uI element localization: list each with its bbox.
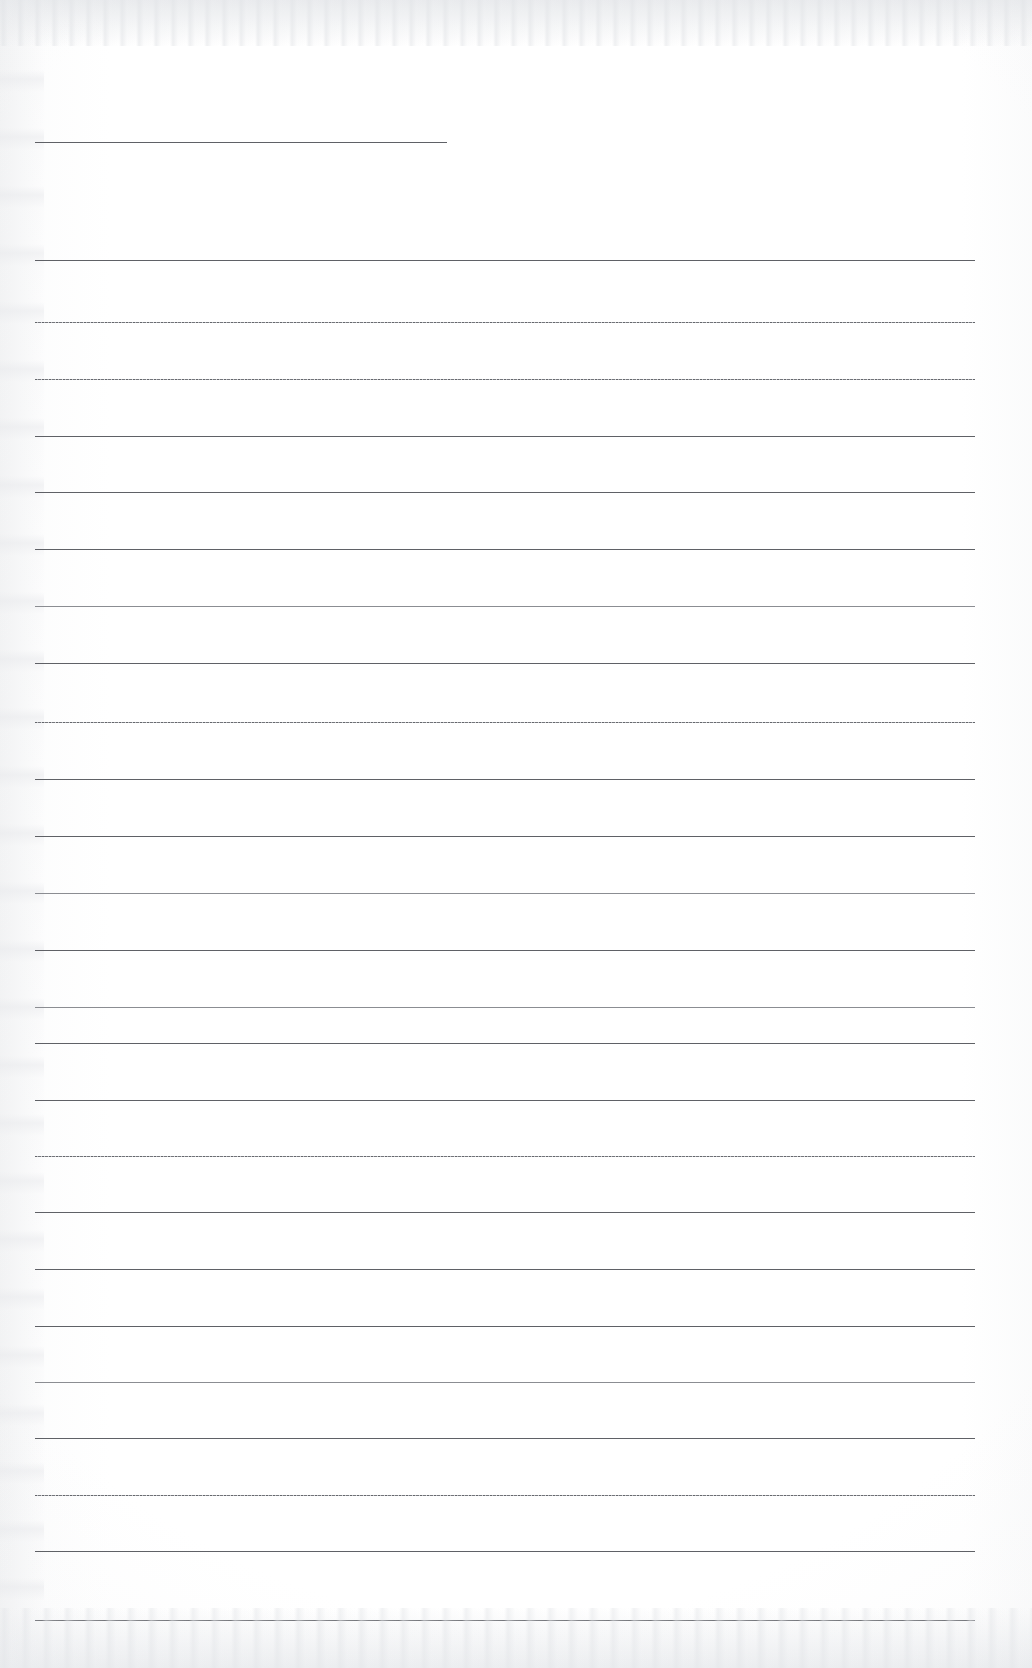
scan-noise-bottom-edge [0, 1608, 1032, 1668]
ruled-line [35, 436, 975, 437]
ruled-line [35, 950, 975, 951]
ruled-line [35, 260, 975, 261]
ruled-line [35, 1382, 975, 1383]
ruled-line [35, 1438, 975, 1439]
ruled-line [35, 1100, 975, 1101]
ruled-line [35, 1551, 975, 1552]
ruled-line-header [35, 142, 447, 143]
ruled-line [35, 779, 975, 780]
ruled-line [35, 1043, 975, 1044]
ruled-line [35, 1212, 975, 1213]
ruled-line [35, 663, 975, 664]
scan-noise-top-edge [0, 0, 1032, 46]
paper-tint-overlay [0, 0, 1032, 1668]
ruled-line [35, 549, 975, 550]
ruled-line [35, 1620, 975, 1621]
ruled-line [35, 893, 975, 894]
scan-speckle-left-margin [0, 70, 44, 1600]
scanned-page [0, 0, 1032, 1668]
ruled-line [35, 379, 975, 380]
ruled-line [35, 722, 975, 723]
ruled-line [35, 1495, 975, 1496]
ruled-line [35, 322, 975, 323]
ruled-line [35, 836, 975, 837]
ruled-line [35, 1007, 975, 1008]
ruled-line [35, 1156, 975, 1157]
ruled-line [35, 492, 975, 493]
ruled-line [35, 1269, 975, 1270]
ruled-line [35, 1326, 975, 1327]
ruled-line [35, 606, 975, 607]
